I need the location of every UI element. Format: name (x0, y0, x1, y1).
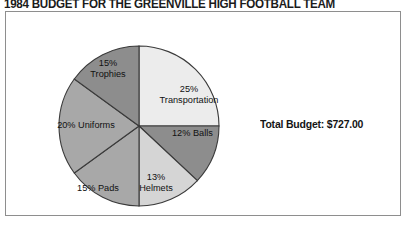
pie-label-helmets-name: Helmets (130, 183, 182, 194)
pie-label-transportation-name: Transportation (146, 95, 232, 106)
pie-label-trophies: 15% Trophies (82, 58, 134, 79)
chart-title: 1984 BUDGET FOR THE GREENVILLE HIGH FOOT… (4, 0, 376, 11)
pie-label-helmets: 13% Helmets (130, 172, 182, 193)
pie-label-transportation: 25% Transportation (146, 84, 232, 105)
chart-frame: 25% Transportation 12% Balls 13% Helmets… (5, 11, 401, 216)
pie-label-pads: 15% Pads (68, 183, 128, 194)
pie-label-uniforms: 20% Uniforms (44, 120, 128, 131)
pie-label-trophies-pct: 15% (82, 58, 134, 69)
pie-label-helmets-pct: 13% (130, 172, 182, 183)
pie-label-transportation-pct: 25% (146, 84, 232, 95)
total-budget-annotation: Total Budget: $727.00 (260, 118, 393, 130)
pie-label-trophies-name: Trophies (82, 69, 134, 80)
pie-label-balls: 12% Balls (172, 128, 234, 139)
